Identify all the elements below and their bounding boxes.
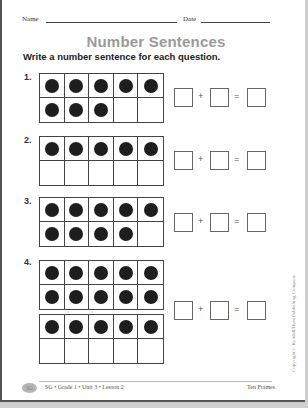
counter-dot-icon (119, 320, 133, 334)
counter-dot-icon (94, 142, 108, 156)
ten-frame-cell (40, 261, 65, 285)
ten-frame-cell (114, 285, 139, 309)
counter-dot-icon (119, 266, 133, 280)
counter-dot-icon (119, 203, 133, 217)
ten-frame-cell (65, 315, 90, 339)
ten-frame-cell (138, 74, 163, 98)
ten-frame-cell (65, 98, 90, 122)
ten-frame-cell (89, 198, 114, 222)
footer-topic: Ten Frames (247, 384, 275, 390)
date-line[interactable] (201, 22, 270, 23)
plus-sign: + (198, 154, 203, 164)
ten-frame-cell (89, 339, 114, 363)
ten-frame-cell (114, 261, 139, 285)
addend-box-2[interactable] (210, 213, 229, 232)
counter-dot-icon (69, 266, 83, 280)
ten-frame-cell (40, 222, 65, 246)
counter-dot-icon (45, 227, 59, 241)
ten-frame-cell (40, 285, 65, 309)
ten-frame-cell (114, 161, 139, 185)
addend-box-1[interactable] (174, 301, 193, 320)
counter-dot-icon (45, 103, 59, 117)
addend-box-1[interactable] (174, 213, 193, 232)
ten-frame-cell (89, 98, 114, 122)
addend-box-2[interactable] (210, 301, 229, 320)
counter-dot-icon (119, 290, 133, 304)
counter-dot-icon (69, 103, 83, 117)
counter-dot-icon (45, 79, 59, 93)
ten-frame-cell (65, 339, 90, 363)
instructions: Write a number sentence for each questio… (23, 51, 220, 62)
ten-frame-cell (89, 315, 114, 339)
footer-divider (39, 381, 272, 382)
counter-dot-icon (94, 79, 108, 93)
ten-frame-cell (40, 74, 65, 98)
number-sentence: + = (174, 151, 269, 171)
number-sentence: + = (174, 213, 269, 233)
ten-frame-cell (138, 222, 163, 246)
equals-sign: = (234, 154, 239, 164)
ten-frame (39, 73, 164, 123)
equals-sign: = (234, 91, 239, 101)
counter-dot-icon (94, 320, 108, 334)
ten-frame-cell (89, 261, 114, 285)
ten-frame-cell (114, 315, 139, 339)
counter-dot-icon (144, 142, 158, 156)
addend-box-1[interactable] (174, 151, 193, 170)
ten-frame-cell (65, 285, 90, 309)
counter-dot-icon (94, 103, 108, 117)
ten-frame-cell (40, 98, 65, 122)
counter-dot-icon (94, 290, 108, 304)
ten-frame-cell (65, 222, 90, 246)
ten-frame-cell (89, 74, 114, 98)
counter-dot-icon (119, 227, 133, 241)
counter-dot-icon (119, 79, 133, 93)
ten-frame-cell (89, 222, 114, 246)
footer-course-info: SG • Grade 1 • Unit 3 • Lesson 2 (45, 384, 124, 390)
question-number: 1. (24, 72, 32, 82)
equals-sign: = (234, 216, 239, 226)
ten-frame-cell (114, 98, 139, 122)
addend-box-2[interactable] (210, 151, 229, 170)
addend-box-2[interactable] (210, 88, 229, 107)
counter-dot-icon (69, 79, 83, 93)
question-number: 2. (24, 135, 32, 145)
counter-dot-icon (144, 79, 158, 93)
copyright-notice: Copyright © Kendall/Hunt Publishing Comp… (291, 262, 296, 372)
counter-dot-icon (94, 266, 108, 280)
ten-frame-cell (114, 339, 139, 363)
ten-frame-cell (40, 315, 65, 339)
ten-frame-cell (138, 315, 163, 339)
sum-box[interactable] (247, 301, 266, 320)
page-title: Number Sentences (2, 33, 308, 50)
counter-dot-icon (69, 320, 83, 334)
sum-box[interactable] (247, 151, 266, 170)
ten-frame-cell (138, 339, 163, 363)
equals-sign: = (234, 304, 239, 314)
ten-frame-cell (138, 161, 163, 185)
ten-frame-cell (114, 74, 139, 98)
ten-frame-cell (65, 161, 90, 185)
sum-box[interactable] (247, 213, 266, 232)
question-number: 3. (24, 196, 32, 206)
worksheet-page: Name Date Number Sentences Write a numbe… (0, 0, 305, 402)
name-line[interactable] (46, 22, 177, 23)
ten-frame-cell (138, 137, 163, 161)
counter-dot-icon (144, 203, 158, 217)
ten-frame-cell (89, 161, 114, 185)
number-sentence: + = (174, 88, 269, 108)
ten-frame-cell (89, 285, 114, 309)
ten-frame-cell (138, 198, 163, 222)
counter-dot-icon (144, 266, 158, 280)
ten-frame-cell (114, 137, 139, 161)
ten-frame-cell (40, 339, 65, 363)
plus-sign: + (198, 216, 203, 226)
counter-dot-icon (69, 142, 83, 156)
sum-box[interactable] (247, 88, 266, 107)
ten-frame-cell (89, 137, 114, 161)
ten-frame-cell (65, 198, 90, 222)
addend-box-1[interactable] (174, 88, 193, 107)
ten-frame-cell (138, 285, 163, 309)
plus-sign: + (198, 91, 203, 101)
date-label: Date (183, 15, 196, 23)
